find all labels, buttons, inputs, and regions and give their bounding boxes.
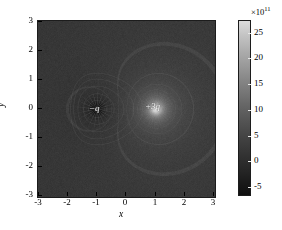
colorbar-tick-label-10: 10 (254, 104, 263, 114)
x-tick-label-minus2: -2 (57, 197, 77, 207)
y-tickmark-1 (38, 50, 42, 51)
positive-charge-label: +3q (145, 102, 160, 111)
y-tick-label-minus2: -2 (11, 160, 33, 170)
colorbar-gradient (238, 20, 251, 196)
colorbar-exponent-power: 11 (264, 5, 270, 12)
x-tick-label-3: 3 (203, 197, 223, 207)
y-tickmark-6 (38, 195, 42, 196)
colorbar-tickmark-25 (248, 33, 251, 34)
colorbar-exponent-prefix: ×10 (251, 7, 264, 17)
x-tickmark-1 (67, 192, 68, 196)
plot-area: −q +3q (37, 20, 216, 198)
colorbar-tick-label-25: 25 (254, 27, 263, 37)
colorbar-tick-label-20: 20 (254, 52, 263, 62)
colorbar-tickmark-5 (248, 136, 251, 137)
colorbar-tick-label-0: 0 (254, 155, 259, 165)
colorbar-tickmark-10 (248, 110, 251, 111)
colorbar-tickmark-20 (248, 58, 251, 59)
x-tick-label-1: 1 (145, 197, 165, 207)
x-tickmark-3 (125, 192, 126, 196)
y-tick-label-minus3: -3 (11, 189, 33, 199)
x-tick-label-2: 2 (174, 197, 194, 207)
colorbar (238, 20, 251, 196)
x-tick-label-minus1: -1 (86, 197, 106, 207)
y-tickmark-3 (38, 108, 42, 109)
colorbar-tick-label-15: 15 (254, 78, 263, 88)
x-axis-title: x (119, 209, 123, 219)
y-tick-label-3: 3 (11, 15, 33, 25)
y-axis-title: y (0, 103, 6, 107)
x-tickmark-5 (184, 192, 185, 196)
y-tick-label-0: 0 (11, 102, 33, 112)
y-tick-label-1: 1 (11, 73, 33, 83)
colorbar-tick-label-5: 5 (254, 130, 259, 140)
y-tick-label-2: 2 (11, 44, 33, 54)
y-tickmark-2 (38, 79, 42, 80)
colorbar-tickmark-minus5 (248, 187, 251, 188)
y-tickmark-4 (38, 137, 42, 138)
figure-electric-field-plot: −q +3q -3 -2 -1 0 1 2 3 3 2 1 0 -1 -2 -3… (0, 0, 282, 230)
x-tickmark-6 (213, 192, 214, 196)
negative-charge-label: −q (89, 104, 100, 113)
colorbar-tickmark-15 (248, 84, 251, 85)
x-tickmark-4 (155, 192, 156, 196)
y-tick-label-minus1: -1 (11, 131, 33, 141)
colorbar-exponent-label: ×1011 (251, 5, 271, 17)
x-tickmark-2 (96, 192, 97, 196)
colorbar-tick-label-minus5: -5 (254, 181, 262, 191)
y-tickmark-0 (38, 21, 42, 22)
y-tickmark-5 (38, 166, 42, 167)
colorbar-tickmark-0 (248, 161, 251, 162)
field-heatmap-canvas (38, 21, 215, 197)
x-tick-label-0: 0 (115, 197, 135, 207)
